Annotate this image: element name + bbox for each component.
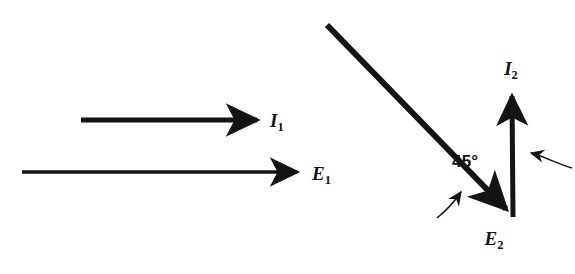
phasor-diagram-canvas: I1 E1 E2 I2 45°: [0, 0, 575, 274]
phasor-I1-label-sub: 1: [277, 120, 283, 134]
phasor-I2-label-sub: 2: [512, 68, 518, 82]
phasor-I2-shaft: [512, 96, 513, 217]
phasor-E1-label-base: E: [311, 163, 325, 184]
angle-label-45: 45°: [452, 152, 478, 171]
phasor-E2-label-sub: 2: [497, 238, 503, 252]
phasor-E2-label-base: E: [484, 228, 498, 249]
phasor-E1-label-sub: 1: [325, 173, 331, 187]
phasor-figure: I1 E1 E2 I2 45°: [0, 0, 575, 274]
